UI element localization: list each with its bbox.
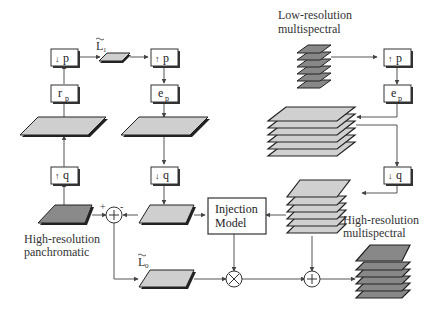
multiply-node [226,271,242,287]
down-arrow-icon: ↓ [155,171,160,181]
svg-text:p: p [65,94,69,103]
pan-lowpass-lower-plane [139,205,196,225]
svg-text:-: - [120,201,123,212]
L0-plane [139,270,196,289]
svg-text:1: 1 [103,46,107,54]
down-q-block-right: ↓ q [384,167,413,186]
svg-text:Injection: Injection [215,202,258,216]
upsampled-ms-stack [268,107,355,156]
up-arrow-icon: ↑ [55,171,60,181]
highres-ms-label-2: multispectral [343,226,406,240]
e-p-block-right: e p [384,85,413,104]
pan-image-plane [38,205,94,225]
add-node [304,271,320,287]
down-arrow-icon: ↓ [55,54,60,64]
svg-text:p: p [396,51,402,65]
svg-text:+: + [100,201,106,212]
svg-text:e: e [158,86,163,100]
up-q-block: ↑ q [51,167,80,186]
highres-ms-stack [287,180,350,233]
output-ms-stack [356,245,410,298]
connections [64,57,397,279]
pansharpening-diagram: ↓ p r p ↑ q ↑ p e p [0,0,433,313]
svg-text:q: q [396,168,402,182]
svg-text:p: p [165,94,169,103]
svg-text:r: r [58,86,62,100]
subtract-node: + - [100,201,123,223]
highres-pan-label-2: panchromatic [24,245,89,259]
lowres-ms-label-1: Low-resolution [278,8,352,22]
L1-plane [99,53,131,63]
up-arrow-icon: ↑ [155,54,160,64]
down-q-block-left: ↓ q [151,167,180,186]
L1-label: L 1 [96,38,107,54]
svg-text:q: q [163,168,169,182]
svg-text:p: p [398,94,402,103]
lowres-ms-label-2: multispectral [278,22,341,36]
lowres-ms-stack [297,45,331,88]
e-p-block-left: e p [151,85,180,104]
up-arrow-icon: ↑ [388,54,393,64]
svg-text:e: e [391,86,396,100]
pan-lowpass-plane [20,117,108,137]
svg-text:Model: Model [215,216,247,230]
r-p-block: r p [51,85,80,104]
up-p-block-left: ↑ p [151,49,180,68]
svg-text:q: q [63,168,69,182]
highres-ms-label-1: High-resolution [343,213,419,227]
pan-expanded-plane [121,117,210,137]
svg-text:p: p [63,51,69,65]
svg-text:p: p [163,51,169,65]
highres-pan-label-1: High-resolution [24,232,100,246]
svg-text:0: 0 [145,262,149,270]
up-p-block-right: ↑ p [384,49,413,68]
injection-model-block: Injection Model [208,198,266,234]
down-p-block-left: ↓ p [51,49,80,68]
down-arrow-icon: ↓ [388,171,393,181]
L0-label: L 0 [138,254,149,270]
